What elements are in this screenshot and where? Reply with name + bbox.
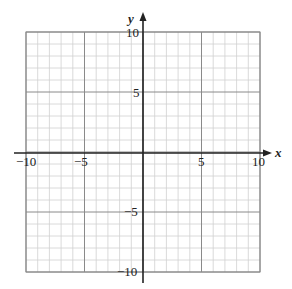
y-tick-10: 10 <box>126 25 139 40</box>
y-tick-neg10: −10 <box>117 264 137 279</box>
x-tick-5: 5 <box>198 154 205 169</box>
x-tick-10: 10 <box>252 154 265 169</box>
x-tick-neg10: −10 <box>16 154 36 169</box>
y-axis-label: y <box>126 11 134 26</box>
coordinate-plane: x y −10 −5 5 10 10 5 −5 −10 <box>0 0 292 289</box>
y-tick-neg5: −5 <box>124 204 138 219</box>
y-axis-arrow-icon <box>140 12 147 21</box>
x-tick-neg5: −5 <box>74 154 88 169</box>
x-axis-label: x <box>274 145 282 160</box>
y-tick-5: 5 <box>133 85 140 100</box>
